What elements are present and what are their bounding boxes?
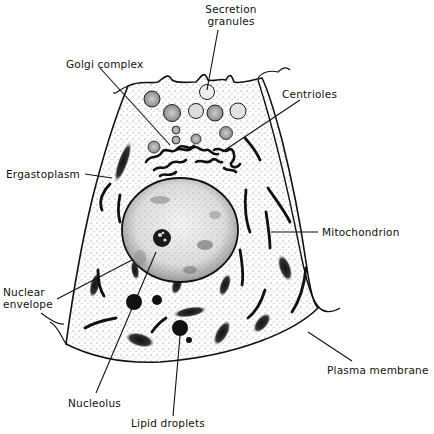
label-plasma-membrane: Plasma membrane	[327, 364, 429, 376]
label-lipid-droplets: Lipid droplets	[131, 417, 205, 429]
label-mitochondrion: Mitochondrion	[322, 226, 400, 238]
label-nuclear-envelope: Nuclear envelope	[3, 286, 53, 310]
label-centrioles: Centrioles	[282, 88, 337, 100]
label-golgi-complex: Golgi complex	[66, 58, 144, 70]
label-nucleolus: Nucleolus	[68, 397, 121, 409]
label-ergastoplasm: Ergastoplasm	[6, 168, 80, 180]
nucleolus-body	[153, 229, 171, 247]
cell-diagram: Secretion granules Golgi complex Centrio…	[0, 0, 434, 434]
label-secretion-granules: Secretion granules	[196, 3, 266, 27]
nucleus	[122, 178, 238, 282]
